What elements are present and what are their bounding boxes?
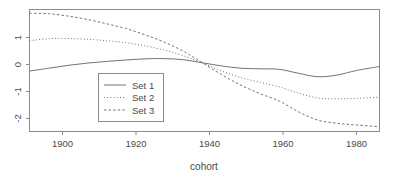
chart-legend: Set 1 Set 2 Set 3 bbox=[99, 74, 164, 122]
x-tick-label-1980: 1980 bbox=[346, 138, 367, 149]
y-tick-label-minus1: -1 bbox=[12, 87, 23, 95]
legend-label-set-3: Set 3 bbox=[132, 105, 154, 116]
y-axis: 1 0 -1 -2 bbox=[12, 35, 30, 123]
series-line-set-3 bbox=[30, 13, 380, 126]
plot-frame bbox=[30, 10, 380, 132]
legend-label-set-2: Set 2 bbox=[132, 92, 154, 103]
x-tick-label-1940: 1940 bbox=[199, 138, 220, 149]
chart-figure: 1 0 -1 -2 1900 1920 1940 1960 1980 cohor… bbox=[0, 0, 401, 179]
x-tick-label-1900: 1900 bbox=[52, 138, 73, 149]
line-chart: 1 0 -1 -2 1900 1920 1940 1960 1980 cohor… bbox=[0, 0, 401, 179]
series-line-set-1 bbox=[30, 59, 380, 77]
x-tick-label-1960: 1960 bbox=[272, 138, 293, 149]
series-group bbox=[30, 13, 380, 126]
x-tick-label-1920: 1920 bbox=[125, 138, 146, 149]
y-tick-label-1: 1 bbox=[12, 35, 23, 40]
y-tick-label-minus2: -2 bbox=[12, 114, 23, 122]
x-axis-title: cohort bbox=[190, 161, 218, 172]
x-axis: 1900 1920 1940 1960 1980 bbox=[52, 132, 367, 150]
y-tick-label-0: 0 bbox=[12, 62, 23, 67]
legend-label-set-1: Set 1 bbox=[132, 80, 154, 91]
series-line-set-2 bbox=[30, 38, 380, 98]
